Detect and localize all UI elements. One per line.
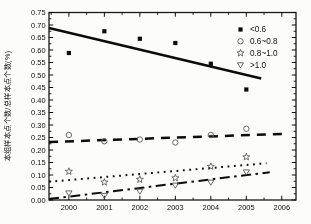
y-axis-tick-label: 0.20 xyxy=(31,146,45,155)
x-axis-tick-label: 2004 xyxy=(203,203,219,212)
y-axis-tick-label: 0.65 xyxy=(31,33,45,42)
y-axis-tick-label: 0.15 xyxy=(31,158,45,167)
data-point-filled-square xyxy=(173,41,177,45)
trend-line-solid xyxy=(49,28,261,79)
legend-label: 0.6~0.8 xyxy=(250,37,278,46)
figure: 20002001200220032004200520060.000.050.10… xyxy=(0,0,311,224)
x-axis-tick-label: 2000 xyxy=(61,203,77,212)
legend-symbol-open-triangle-down xyxy=(237,63,243,68)
data-point-open-triangle-down xyxy=(66,191,72,196)
data-point-open-star xyxy=(243,153,250,160)
y-axis-tick-label: 0.50 xyxy=(31,71,45,80)
legend-symbol-filled-square xyxy=(238,27,242,31)
legend-label: <0.6 xyxy=(250,25,267,34)
scatter-chart: 20002001200220032004200520060.000.050.10… xyxy=(0,0,311,224)
data-point-filled-square xyxy=(244,87,248,91)
x-axis-tick-label: 2001 xyxy=(96,203,112,212)
x-axis-tick-label: 2002 xyxy=(132,203,148,212)
data-point-open-star xyxy=(172,174,179,181)
y-axis-tick-label: 0.35 xyxy=(31,108,45,117)
data-point-open-star xyxy=(136,176,143,183)
y-axis-tick-label: 0.55 xyxy=(31,58,45,67)
y-axis-tick-label: 0.40 xyxy=(31,96,45,105)
legend-label: 0.8~1.0 xyxy=(250,49,278,58)
data-point-filled-square xyxy=(138,37,142,41)
data-point-open-star xyxy=(65,168,72,175)
data-point-open-star xyxy=(101,179,108,186)
trend-line-dotted xyxy=(49,163,267,182)
y-axis-tick-label: 0.10 xyxy=(31,171,45,180)
data-point-open-triangle-down xyxy=(137,189,143,194)
trend-line-dashed xyxy=(49,134,287,142)
y-axis-tick-label: 0.00 xyxy=(31,196,45,205)
y-axis-tick-label: 0.05 xyxy=(31,183,45,192)
data-point-open-star xyxy=(207,163,214,170)
y-axis-tick-label: 0.60 xyxy=(31,46,45,55)
data-point-filled-square xyxy=(209,62,213,66)
y-axis-tick-label: 0.30 xyxy=(31,121,45,130)
legend-symbol-open-star xyxy=(237,49,244,56)
data-point-open-triangle-down xyxy=(208,180,214,185)
data-point-open-circle xyxy=(66,132,71,137)
y-axis-tick-label: 0.75 xyxy=(31,8,45,17)
y-axis-tick-label: 0.45 xyxy=(31,83,45,92)
y-axis-tick-label: 0.25 xyxy=(31,133,45,142)
legend-symbol-open-circle xyxy=(238,39,243,44)
y-axis-tick-label: 0.70 xyxy=(31,21,45,30)
data-point-filled-square xyxy=(67,51,71,55)
legend-label: >1.0 xyxy=(250,61,267,70)
y-axis-title: 本组样本点个数/总样本点个数(%) xyxy=(3,51,12,162)
data-point-open-triangle-down xyxy=(172,183,178,188)
trend-line-dashdot xyxy=(49,172,270,199)
data-point-open-circle xyxy=(244,126,249,131)
data-point-open-circle xyxy=(173,140,178,145)
data-point-filled-square xyxy=(102,29,106,33)
x-axis-tick-label: 2005 xyxy=(238,203,254,212)
x-axis-tick-label: 2003 xyxy=(167,203,183,212)
x-axis-tick-label: 2006 xyxy=(274,203,290,212)
